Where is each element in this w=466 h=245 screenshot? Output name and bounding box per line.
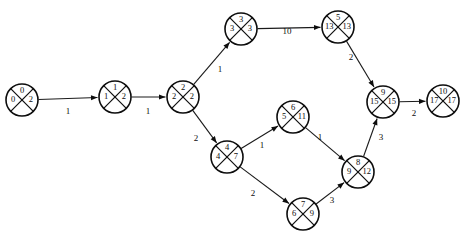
edge-label: 2 (349, 52, 354, 62)
edge-label: 3 (379, 132, 384, 142)
node-value-right: 15 (388, 96, 397, 106)
node-value-left: 4 (216, 151, 221, 161)
node-value-left: 9 (347, 166, 351, 176)
arrowhead-icon (368, 80, 374, 87)
node-value-top: 10 (439, 86, 448, 96)
arrowhead-icon (91, 95, 98, 100)
arrowhead-icon (271, 126, 278, 132)
edge-label: 10 (283, 26, 293, 36)
node-n2: 222 (167, 81, 199, 113)
node-value-top: 2 (181, 82, 185, 92)
node-value-left: 6 (292, 208, 296, 218)
node-n5: 51313 (322, 11, 354, 43)
node-value-right: 2 (190, 91, 194, 101)
node-n6: 6511 (277, 101, 309, 133)
node-value-left: 5 (282, 111, 286, 121)
node-value-top: 8 (356, 157, 360, 167)
arrowhead-icon (159, 94, 166, 99)
diagram-canvas: 0021122223335131344765118912769915151017… (0, 0, 466, 245)
edge-n0-n1 (38, 95, 97, 100)
node-n10: 101717 (427, 85, 459, 117)
edge-n2-n3 (194, 42, 230, 84)
node-value-right: 9 (310, 208, 314, 218)
edge-n6-n8 (306, 128, 345, 161)
node-value-top: 5 (336, 12, 340, 22)
edge-line (306, 128, 345, 161)
node-value-left: 2 (172, 91, 176, 101)
node-value-left: 3 (230, 23, 234, 33)
network-diagram-svg: 0021122223335131344765118912769915151017… (0, 0, 466, 245)
node-value-top: 1 (113, 82, 117, 92)
edge-label: 1 (146, 106, 151, 116)
edge-label: 1 (260, 140, 265, 150)
node-n1: 112 (99, 81, 131, 113)
node-n4: 447 (211, 141, 243, 173)
arrowhead-icon (314, 25, 321, 30)
edge-label: 2 (412, 108, 417, 118)
edge-line (240, 167, 289, 204)
node-value-left: 17 (430, 95, 439, 105)
node-value-left: 15 (370, 96, 379, 106)
arrowhead-icon (337, 183, 344, 189)
edge-label: 1 (66, 106, 71, 116)
node-value-right: 7 (234, 151, 238, 161)
edge-label: 1 (218, 64, 223, 74)
node-value-top: 3 (239, 14, 243, 24)
edge-n9-n10 (399, 99, 425, 104)
node-value-right: 11 (298, 111, 306, 121)
edge-line (194, 42, 230, 84)
node-value-top: 0 (20, 85, 24, 95)
node-value-top: 6 (291, 102, 295, 112)
node-n0: 002 (6, 84, 38, 116)
edge-n8-n9 (364, 118, 378, 156)
arrowhead-icon (419, 99, 426, 104)
edge-label: 1 (318, 132, 323, 142)
node-value-right: 2 (29, 94, 33, 104)
arrowhead-icon (211, 136, 217, 143)
node-n7: 769 (287, 198, 319, 230)
edge-n1-n2 (132, 94, 166, 99)
node-value-left: 13 (325, 21, 334, 31)
node-value-right: 17 (448, 95, 457, 105)
node-value-right: 2 (122, 91, 126, 101)
node-n8: 8912 (342, 156, 374, 188)
arrowhead-icon (372, 118, 377, 125)
node-n9: 91515 (367, 86, 399, 118)
edge-line (346, 41, 374, 87)
node-value-right: 13 (343, 21, 352, 31)
node-value-top: 9 (381, 87, 385, 97)
node-value-left: 0 (11, 94, 15, 104)
edge-line (38, 98, 97, 100)
node-value-top: 7 (301, 199, 305, 209)
edge-label: 2 (251, 188, 256, 198)
edge-label: 3 (330, 195, 335, 205)
node-n3: 333 (225, 13, 257, 45)
node-value-right: 3 (248, 23, 252, 33)
edge-label: 2 (194, 133, 199, 143)
arrowhead-icon (282, 198, 289, 204)
node-value-right: 12 (363, 166, 372, 176)
nodes-layer: 0021122223335131344765118912769915151017… (6, 11, 459, 230)
node-value-left: 1 (104, 91, 108, 101)
edge-n4-n7 (240, 167, 289, 204)
edge-n5-n9 (346, 41, 374, 87)
